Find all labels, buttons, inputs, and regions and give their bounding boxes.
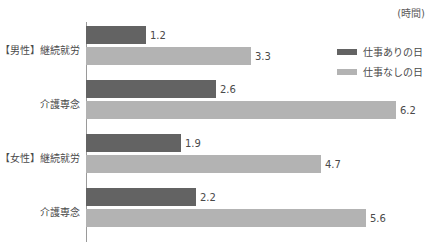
bar-value-label: 2.6: [216, 84, 236, 95]
category-label: 【女性】継続就労: [0, 150, 80, 165]
bar-row: 6.2: [86, 101, 396, 119]
bar-row: 2.2: [86, 188, 196, 206]
bar-row: 5.6: [86, 209, 366, 227]
bar-value-label: 2.2: [196, 192, 216, 203]
legend-item[interactable]: 仕事ありの日: [337, 44, 423, 59]
category-label: 介護専念: [0, 96, 80, 111]
bar-group: 【女性】継続就労1.94.7: [0, 130, 433, 184]
legend: 仕事ありの日仕事なしの日: [337, 44, 423, 79]
bar: [86, 101, 396, 119]
bar-row: 4.7: [86, 155, 321, 173]
legend-swatch-icon: [337, 49, 357, 55]
bar: [86, 134, 181, 152]
unit-label: (時間): [397, 5, 425, 20]
bar: [86, 47, 251, 65]
bar-chart: (時間) 【男性】継続就労1.23.3介護専念2.66.2【女性】継続就労1.9…: [0, 0, 433, 252]
bar-row: 2.6: [86, 80, 216, 98]
legend-swatch-icon: [337, 69, 357, 75]
bar-value-label: 1.2: [146, 30, 166, 41]
bar: [86, 155, 321, 173]
bar: [86, 80, 216, 98]
category-label: 【男性】継続就労: [0, 42, 80, 57]
bar-row: 3.3: [86, 47, 251, 65]
category-label: 介護専念: [0, 204, 80, 219]
bar-row: 1.9: [86, 134, 181, 152]
bar-group: 介護専念2.25.6: [0, 184, 433, 238]
bar-value-label: 3.3: [251, 51, 271, 62]
bar: [86, 188, 196, 206]
bar-group: 介護専念2.66.2: [0, 76, 433, 130]
legend-label: 仕事なしの日: [363, 64, 423, 79]
bar-value-label: 1.9: [181, 138, 201, 149]
bar: [86, 209, 366, 227]
bar-value-label: 6.2: [396, 105, 416, 116]
bar-value-label: 4.7: [321, 159, 341, 170]
legend-label: 仕事ありの日: [363, 44, 423, 59]
legend-item[interactable]: 仕事なしの日: [337, 64, 423, 79]
bar-value-label: 5.6: [366, 213, 386, 224]
bar-row: 1.2: [86, 26, 146, 44]
bar: [86, 26, 146, 44]
